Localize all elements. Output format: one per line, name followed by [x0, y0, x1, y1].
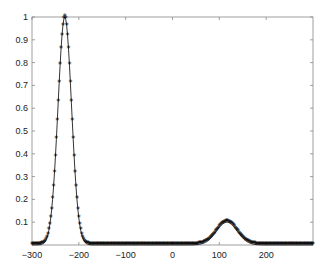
data-point-marker: *: [56, 98, 60, 107]
y-tick-label: 0.3: [15, 172, 28, 182]
x-tick-label: 200: [259, 250, 274, 260]
data-point-marker: *: [69, 98, 73, 107]
x-tick-label: −300: [22, 250, 42, 260]
data-point-marker: *: [67, 45, 71, 54]
y-tick-label: 0.1: [15, 217, 28, 227]
data-point-marker: *: [49, 214, 53, 223]
data-point-marker: *: [57, 79, 61, 88]
x-tick-label: 100: [212, 250, 227, 260]
data-point-marker: *: [67, 61, 71, 70]
data-point-marker: *: [58, 61, 62, 70]
y-tick-label: 1: [23, 12, 28, 22]
x-tick-label: −100: [116, 250, 136, 260]
data-point-marker: *: [59, 45, 63, 54]
data-point-marker: *: [311, 241, 315, 250]
data-point-marker: *: [53, 153, 57, 162]
data-point-marker: *: [55, 117, 59, 126]
axes-frame: [32, 17, 313, 245]
x-tick-label: 0: [170, 250, 175, 260]
chart: −300−200−1000100200 0.10.20.30.40.50.60.…: [0, 0, 329, 274]
data-point-marker: *: [68, 79, 72, 88]
y-tick-label: 0.2: [15, 194, 28, 204]
data-point-marker: *: [74, 183, 78, 192]
data-point-marker: *: [65, 22, 69, 31]
data-point-marker: *: [50, 206, 54, 215]
y-tick-label: 0.8: [15, 58, 28, 68]
data-point-marker: *: [60, 32, 64, 41]
data-point-marker: *: [51, 195, 55, 204]
data-point-marker: *: [52, 183, 56, 192]
x-tick-label: −200: [69, 250, 89, 260]
data-point-marker: *: [71, 135, 75, 144]
data-point-marker: *: [73, 169, 77, 178]
data-point-marker: *: [52, 169, 56, 178]
data-point-marker: *: [72, 153, 76, 162]
y-tick-label: 0.6: [15, 103, 28, 113]
data-point-marker: *: [54, 135, 58, 144]
data-point-marker: *: [66, 32, 70, 41]
data-point-marker: *: [70, 117, 74, 126]
y-tick-label: 0.5: [15, 126, 28, 136]
data-point-marker: *: [75, 195, 79, 204]
y-tick-label: 0.7: [15, 80, 28, 90]
y-tick-label: 0.9: [15, 35, 28, 45]
y-tick-label: 0.4: [15, 149, 28, 159]
